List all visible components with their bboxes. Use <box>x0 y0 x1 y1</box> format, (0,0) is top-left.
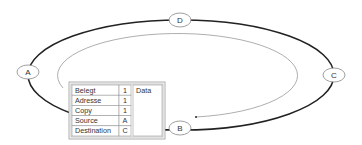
node-b-label: B <box>177 124 182 133</box>
field-name: Copy <box>75 106 92 115</box>
field-value: 1 <box>123 96 127 105</box>
field-value: 1 <box>123 106 127 115</box>
node-d[interactable]: D <box>169 13 191 27</box>
node-a-label: A <box>25 68 31 77</box>
field-value: 1 <box>123 86 127 95</box>
field-name: Belegt <box>75 86 95 95</box>
packet-field-row: DestinationC <box>72 126 131 136</box>
packet-frame: Belegt1Adresse1Copy1SourceADestinationC … <box>69 82 165 139</box>
node-a[interactable]: A <box>17 65 39 79</box>
field-name: Source <box>75 116 98 125</box>
node-c-label: C <box>331 71 337 80</box>
node-d-label: D <box>177 16 183 25</box>
packet-field-row: Adresse1 <box>72 95 131 105</box>
packet-field-row: SourceA <box>72 116 131 126</box>
ring-network-diagram: D A C B Belegt1Adresse1Copy1SourceADesti… <box>0 0 362 145</box>
field-value: A <box>123 116 128 125</box>
node-c[interactable]: C <box>323 68 345 82</box>
packet-header-fields: Belegt1Adresse1Copy1SourceADestinationC <box>72 85 131 136</box>
data-label: Data <box>136 86 151 95</box>
node-b[interactable]: B <box>169 121 191 135</box>
field-name: Adresse <box>75 96 101 105</box>
packet-field-row: Belegt1 <box>72 85 131 95</box>
field-value: C <box>122 126 127 135</box>
packet-field-row: Copy1 <box>72 105 131 115</box>
field-name: Destination <box>75 126 111 135</box>
